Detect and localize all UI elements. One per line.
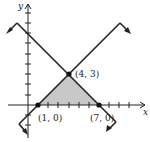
label-4-3: (4, 3) — [75, 69, 99, 79]
y-axis-label: y — [17, 1, 24, 11]
label-7-0: (7, 0) — [90, 113, 114, 123]
point-4-3 — [66, 71, 71, 76]
x-axis-label: x — [143, 107, 148, 117]
point-1-0 — [35, 102, 40, 107]
point-7-0 — [96, 102, 101, 107]
graph: (4, 3) (1, 0) (7, 0) y x — [0, 0, 150, 142]
label-1-0: (1, 0) — [38, 113, 62, 123]
decreasing-line — [17, 23, 116, 122]
